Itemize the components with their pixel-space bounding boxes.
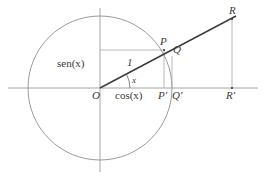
label-point-q-prime: Q' — [172, 90, 182, 101]
label-point-p-prime: P' — [158, 90, 167, 101]
angle-arc — [127, 74, 131, 88]
label-sine: sen(x) — [57, 58, 85, 69]
label-point-p: P — [160, 36, 167, 47]
label-angle-x: x — [132, 76, 136, 85]
label-cosine: cos(x) — [115, 90, 143, 101]
point-marker-p — [163, 49, 165, 51]
label-point-q: Q — [173, 44, 181, 55]
label-origin: O — [92, 90, 100, 101]
point-marker-r — [231, 18, 233, 20]
ray-o-to-r — [100, 16, 236, 88]
geometry-figure: O P Q R P' Q' R' sen(x) cos(x) 1 x — [0, 0, 266, 177]
label-radius-one: 1 — [127, 57, 133, 68]
label-point-r: R — [229, 5, 236, 16]
label-point-r-prime: R' — [226, 90, 235, 101]
